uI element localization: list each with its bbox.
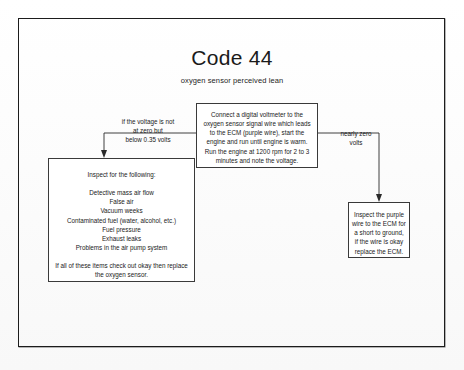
edge-right-arrowhead bbox=[376, 194, 382, 202]
node-inspect-checklist: Inspect for the following: Detective mas… bbox=[48, 158, 195, 282]
edge-label-left-line-2: at zero but bbox=[106, 127, 190, 136]
checklist-item: False air bbox=[53, 197, 190, 206]
checklist-lead: Inspect for the following: bbox=[53, 170, 190, 179]
edge-label-right-line-2: volts bbox=[327, 139, 385, 148]
node-voltmeter-test: Connect a digital voltmeter to the oxyge… bbox=[196, 103, 318, 168]
node-ecm-inspection: Inspect the purple wire to the ECM for a… bbox=[348, 202, 410, 258]
checklist-items: Detective mass air flow False air Vacuum… bbox=[53, 188, 190, 252]
edge-label-left-line-1: if the voltage is not bbox=[106, 118, 190, 127]
checklist-item: Vacuum weeks bbox=[53, 206, 190, 215]
edge-label-left: if the voltage is not at zero but below … bbox=[106, 118, 190, 144]
checklist-item: Detective mass air flow bbox=[53, 188, 190, 197]
edge-left-arrowhead bbox=[101, 150, 107, 158]
node-ecm-inspection-text: Inspect the purple wire to the ECM for a… bbox=[352, 211, 406, 255]
checklist-item: Problems in the air pump system bbox=[53, 243, 190, 252]
diagram-page: Code 44 oxygen sensor perceived lean if … bbox=[0, 0, 464, 370]
checklist-item: Fuel pressure bbox=[53, 225, 190, 234]
checklist-item: Contaminated fuel (water, alcohol, etc.) bbox=[53, 216, 190, 225]
edge-label-right: nearly zero volts bbox=[327, 130, 385, 148]
edge-label-right-line-1: nearly zero bbox=[327, 130, 385, 139]
node-voltmeter-test-text: Connect a digital voltmeter to the oxyge… bbox=[203, 111, 310, 164]
checklist-item: Exhaust leaks bbox=[53, 234, 190, 243]
checklist-tail: If all of these items check out okay the… bbox=[53, 261, 190, 279]
edge-label-left-line-3: below 0.35 volts bbox=[106, 136, 190, 145]
